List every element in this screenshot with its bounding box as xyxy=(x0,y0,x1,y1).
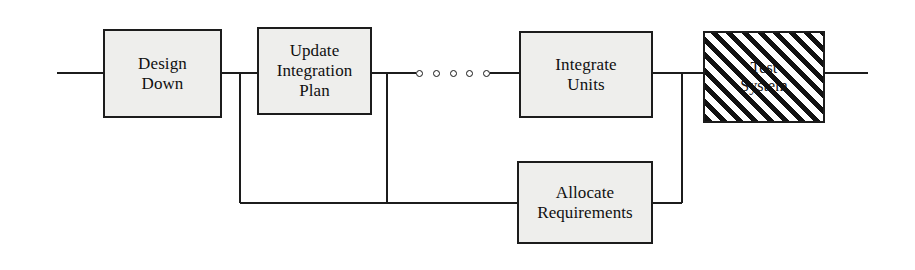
ellipsis-dot xyxy=(466,70,473,77)
process-ellipsis-dots xyxy=(416,70,490,77)
node-design-down: Design Down xyxy=(103,29,222,118)
node-update-integration-plan-label: Update Integration Plan xyxy=(274,41,356,100)
ellipsis-dot xyxy=(450,70,457,77)
ellipsis-dot xyxy=(416,70,423,77)
node-integrate-units: Integrate Units xyxy=(519,31,653,118)
node-test-system: Test System xyxy=(703,31,825,123)
node-allocate-requirements: Allocate Requirements xyxy=(517,161,653,244)
node-allocate-requirements-label: Allocate Requirements xyxy=(534,183,636,222)
ellipsis-dot xyxy=(483,70,490,77)
ellipsis-dot xyxy=(433,70,440,77)
node-integrate-units-label: Integrate Units xyxy=(552,55,619,94)
node-design-down-label: Design Down xyxy=(135,54,190,93)
node-update-integration-plan: Update Integration Plan xyxy=(257,27,372,115)
process-flow-diagram: Design Down Update Integration Plan Inte… xyxy=(0,0,915,270)
node-test-system-label: Test System xyxy=(737,59,791,94)
